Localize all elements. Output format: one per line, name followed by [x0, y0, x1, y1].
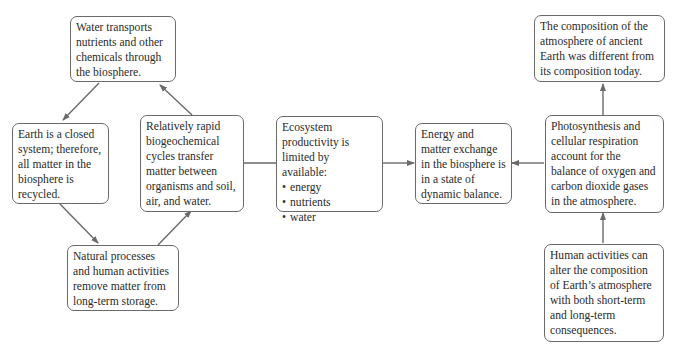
node-text: Relatively rapid biogeochemical cycles t… — [146, 119, 238, 209]
node-dynamic-balance: Energy and matter exchange in the biosph… — [415, 123, 512, 204]
node-text: Energy and matter exchange in the biosph… — [421, 127, 506, 202]
node-ecosystem-productivity: Ecosystem productivity is limited by ava… — [276, 116, 383, 212]
node-text: Water transports nutrients and other che… — [76, 20, 170, 80]
list-item-energy: energy — [282, 180, 377, 195]
node-text: Human activities can alter the compositi… — [550, 248, 658, 338]
list-item-nutrients: nutrients — [282, 195, 377, 210]
node-photosynthesis: Photosynthesis and cellular respiration … — [545, 115, 664, 213]
node-natural-processes: Natural processes and human activities r… — [67, 245, 179, 311]
node-ancient-atmosphere: The composition of the atmosphere of anc… — [534, 15, 665, 82]
node-human-activities: Human activities can alter the compositi… — [544, 244, 664, 342]
node-text: Photosynthesis and cellular respiration … — [551, 119, 658, 209]
node-text: Earth is a closed system; therefore, all… — [18, 127, 103, 202]
node-closed-system: Earth is a closed system; therefore, all… — [12, 123, 109, 204]
node-text: Ecosystem productivity is limited by ava… — [282, 120, 377, 180]
node-water-transport: Water transports nutrients and other che… — [70, 16, 176, 82]
resource-list: energy nutrients water — [282, 180, 377, 225]
list-item-water: water — [282, 210, 377, 225]
node-text: The composition of the atmosphere of anc… — [540, 19, 659, 79]
node-biogeochemical: Relatively rapid biogeochemical cycles t… — [140, 115, 244, 212]
node-text: Natural processes and human activities r… — [73, 249, 173, 309]
